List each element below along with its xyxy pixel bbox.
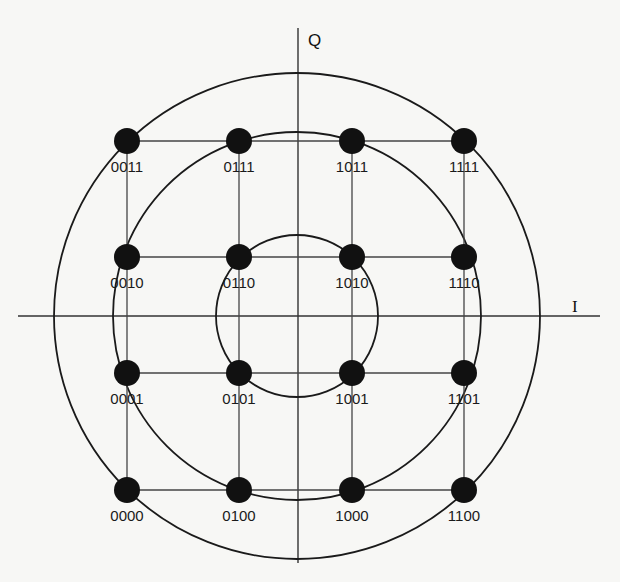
point-dot <box>339 244 365 270</box>
point-label: 1010 <box>335 274 368 291</box>
point-dot <box>451 360 477 386</box>
constellation-point: 1100 <box>448 477 480 524</box>
point-dot <box>339 360 365 386</box>
point-dot <box>339 477 365 503</box>
point-dot <box>226 244 252 270</box>
point-label: 1110 <box>448 274 479 291</box>
i-axis-label: I <box>572 297 578 316</box>
point-dot <box>451 244 477 270</box>
point-label: 0111 <box>223 158 254 175</box>
point-dot <box>226 477 252 503</box>
point-dot <box>339 128 365 154</box>
point-dot <box>114 128 140 154</box>
point-label: 1011 <box>336 158 368 175</box>
constellation-point: 0100 <box>222 477 255 524</box>
constellation-point: 0111 <box>223 128 254 175</box>
constellation-point: 1111 <box>449 128 479 175</box>
q-axis-label: Q <box>308 31 321 50</box>
point-label: 0010 <box>110 274 143 291</box>
point-label: 0001 <box>110 390 143 407</box>
constellation-point: 1011 <box>336 128 368 175</box>
constellation-point: 1010 <box>335 244 368 291</box>
point-dot <box>226 360 252 386</box>
qam-constellation-diagram: Q I 001101111011111100100110101011100001… <box>0 0 620 582</box>
point-dot <box>226 128 252 154</box>
point-label: 0011 <box>111 158 143 175</box>
point-label: 1101 <box>448 390 480 407</box>
constellation-point: 1000 <box>335 477 368 524</box>
point-label: 1000 <box>335 507 368 524</box>
point-dot <box>114 360 140 386</box>
constellation-point: 0001 <box>110 360 143 407</box>
constellation-point: 0110 <box>223 244 255 291</box>
point-dot <box>114 477 140 503</box>
point-label: 0110 <box>223 274 255 291</box>
point-label: 1001 <box>335 390 368 407</box>
point-label: 0000 <box>110 507 143 524</box>
constellation-point: 0010 <box>110 244 143 291</box>
constellation-point: 0011 <box>111 128 143 175</box>
constellation-point: 1101 <box>448 360 480 407</box>
point-dot <box>114 244 140 270</box>
point-label: 0100 <box>222 507 255 524</box>
point-label: 0101 <box>222 390 255 407</box>
point-label: 1100 <box>448 507 480 524</box>
point-dot <box>451 477 477 503</box>
point-dot <box>451 128 477 154</box>
point-label: 1111 <box>449 158 479 175</box>
